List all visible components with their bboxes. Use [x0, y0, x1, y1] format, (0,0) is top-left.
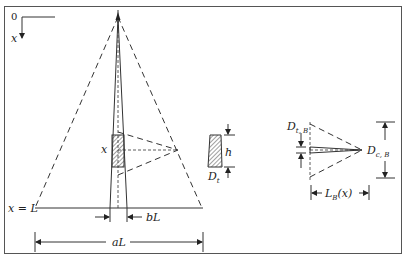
figure-frame: [5, 7, 402, 254]
base-label: x = L: [8, 202, 38, 215]
crown-outline: [35, 17, 202, 208]
bL-dimension: bL: [95, 208, 160, 224]
apex-arrow-icon: [116, 12, 121, 20]
height-h-label: h: [225, 146, 232, 159]
stem: [110, 10, 127, 208]
diameter-Dt-label: Dt: [207, 170, 220, 185]
origin-label: 0: [11, 11, 17, 22]
bL-label: bL: [146, 211, 160, 224]
branch-crown-label: Dc, B: [366, 144, 389, 159]
branch-projection: [118, 132, 178, 175]
branch-detail: Dt, B Dc, B LB(x): [286, 120, 395, 202]
element-x-label: x: [101, 143, 108, 156]
element-detail: h Dt: [207, 124, 235, 185]
branch-tip-label: Dt, B: [286, 120, 308, 135]
axis-x-label: x: [11, 32, 18, 45]
stem-element: [112, 135, 124, 167]
aL-label: aL: [112, 236, 126, 249]
aL-dimension: aL: [35, 232, 203, 252]
branch-length-label: LB(x): [324, 187, 352, 202]
tree-crown-diagram: 0 x x x = L bL aL: [0, 0, 406, 261]
axis-indicator: 0 x: [11, 11, 55, 45]
